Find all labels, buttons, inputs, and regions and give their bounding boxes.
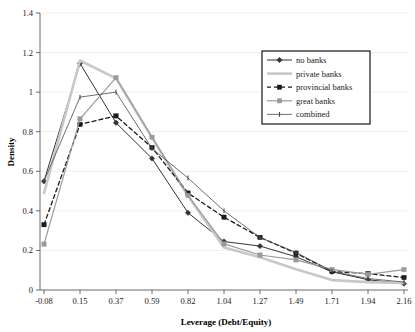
series-marker bbox=[150, 135, 154, 139]
x-tick-label: 1.94 bbox=[361, 296, 377, 306]
legend-label: private banks bbox=[296, 69, 342, 79]
x-tick-label: -0.08 bbox=[35, 296, 53, 306]
y-tick-label: 0 bbox=[29, 285, 33, 295]
y-tick-label: 1.4 bbox=[22, 8, 33, 18]
y-tick-label: 1.2 bbox=[22, 48, 33, 58]
legend-label: great banks bbox=[296, 96, 335, 106]
chart-canvas: -0.080.150.370.590.821.041.271.491.711.9… bbox=[0, 0, 415, 332]
series-marker bbox=[42, 223, 46, 227]
series-marker bbox=[258, 253, 262, 257]
y-tick-label: 0.2 bbox=[22, 245, 33, 255]
x-tick-label: 0.15 bbox=[73, 296, 88, 306]
chart-legend: no banksprivate banksprovincial banksgre… bbox=[262, 51, 370, 124]
legend-label: provincial banks bbox=[296, 82, 352, 92]
legend-label: no banks bbox=[296, 55, 326, 65]
series-marker bbox=[222, 242, 226, 246]
x-axis-title: Leverage (Debt/Equity) bbox=[181, 317, 272, 327]
x-tick-label: 1.71 bbox=[325, 296, 340, 306]
legend-label: combined bbox=[296, 109, 330, 119]
series-marker bbox=[78, 117, 82, 121]
y-tick-label: 0.8 bbox=[22, 127, 33, 137]
x-tick-label: 0.59 bbox=[145, 296, 160, 306]
x-tick-label: 0.37 bbox=[109, 296, 124, 306]
density-chart-figure: -0.080.150.370.590.821.041.271.491.711.9… bbox=[0, 0, 415, 332]
x-tick-label: 1.04 bbox=[217, 296, 233, 306]
series-marker bbox=[114, 114, 118, 118]
x-tick-label: 1.27 bbox=[253, 296, 268, 306]
series-marker bbox=[366, 272, 370, 276]
series-marker bbox=[294, 258, 298, 262]
y-tick-label: 1 bbox=[29, 87, 33, 97]
legend-marker bbox=[277, 85, 281, 89]
y-tick-label: 0.6 bbox=[22, 166, 33, 176]
x-tick-label: 0.82 bbox=[181, 296, 196, 306]
x-tick-label: 1.49 bbox=[289, 296, 304, 306]
legend-marker bbox=[277, 99, 281, 103]
series-marker bbox=[402, 267, 406, 271]
x-tick-label: 2.16 bbox=[397, 296, 412, 306]
series-marker bbox=[402, 275, 406, 279]
series-marker bbox=[114, 75, 118, 79]
series-marker bbox=[186, 193, 190, 197]
series-marker bbox=[222, 215, 226, 219]
y-axis-title: Density bbox=[6, 137, 16, 166]
series-marker bbox=[42, 242, 46, 246]
y-tick-label: 0.4 bbox=[22, 206, 33, 216]
